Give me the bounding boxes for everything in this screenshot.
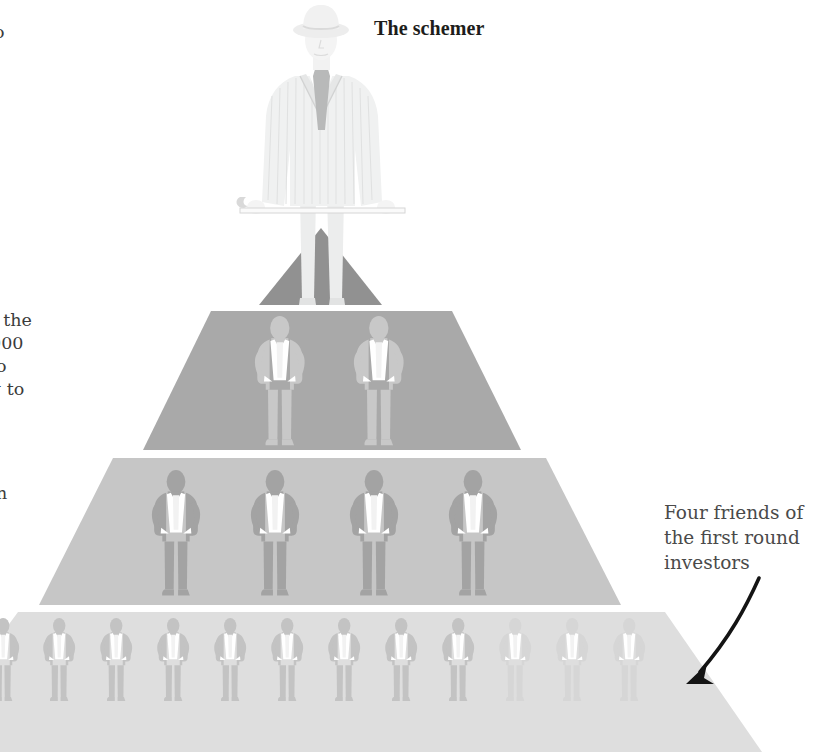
callout-line-3: investors [664, 550, 821, 575]
pyramid-infographic: The schemer o , the 000 o g to n Four fr… [0, 0, 821, 755]
left-text-fragment-2: 000 [0, 333, 23, 353]
left-text-fragment-4: g to [0, 379, 24, 399]
left-text-fragment-1: , the [0, 310, 32, 330]
pyramid-graphic [0, 0, 821, 755]
left-text-fragment-5: n [0, 483, 7, 503]
left-text-fragment-3: o [0, 356, 7, 376]
pyramid-tier-3[interactable] [39, 458, 621, 605]
callout-annotation: Four friends of the first round investor… [664, 500, 821, 575]
page-title: The schemer [374, 17, 485, 40]
callout-line-2: the first round [664, 525, 821, 550]
pyramid-tier-2[interactable] [143, 311, 521, 450]
pyramid-tier-1[interactable] [259, 228, 382, 305]
left-text-fragment-0: o [0, 22, 5, 42]
callout-line-1: Four friends of [664, 500, 821, 525]
